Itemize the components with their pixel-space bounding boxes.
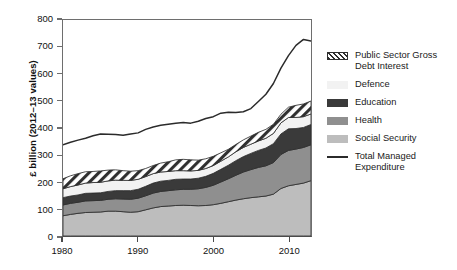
x-tick-label: 2010: [269, 245, 309, 256]
legend-label: Public Sector Gross Debt Interest: [355, 50, 455, 71]
health-swatch-icon: [327, 117, 348, 125]
x-tick: [213, 237, 214, 242]
y-tick-label: 800: [19, 13, 53, 24]
y-tick-label: 600: [19, 68, 53, 79]
chart-container: £ billion (2012–13 values) 0100200300400…: [0, 0, 457, 270]
y-tick: [57, 182, 62, 183]
education-swatch-icon: [327, 99, 348, 107]
legend-label: Education: [355, 97, 396, 108]
y-tick-label: 700: [19, 40, 53, 51]
y-tick-label: 0: [19, 231, 53, 242]
legend-label: Social Security: [355, 133, 417, 144]
y-tick: [57, 46, 62, 47]
y-tick-label: 200: [19, 177, 53, 188]
x-tick-label: 1990: [118, 245, 158, 256]
y-tick: [57, 100, 62, 101]
legend-label: Defence: [355, 79, 390, 90]
hatched-swatch-icon: [327, 52, 348, 60]
legend-item-education: Education: [327, 97, 455, 108]
y-tick: [57, 73, 62, 74]
legend-item-health: Health: [327, 115, 455, 126]
legend-item-social-security: Social Security: [327, 133, 455, 144]
social-security-swatch-icon: [327, 135, 348, 143]
defence-swatch-icon: [327, 81, 348, 89]
y-tick-label: 100: [19, 204, 53, 215]
y-tick-label: 400: [19, 122, 53, 133]
legend-label: Health: [355, 115, 382, 126]
legend-label: Total Managed Expenditure: [355, 151, 455, 172]
y-tick-label: 500: [19, 95, 53, 106]
y-tick: [57, 18, 62, 19]
legend-item-total-managed-expenditure: Total Managed Expenditure: [327, 151, 455, 172]
y-tick-label: 300: [19, 149, 53, 160]
x-tick-label: 2000: [194, 245, 234, 256]
y-tick: [57, 127, 62, 128]
y-tick: [57, 209, 62, 210]
x-tick: [289, 237, 290, 242]
chart-legend: Public Sector Gross Debt Interest Defenc…: [327, 50, 455, 180]
area-layers: [63, 101, 311, 236]
line-swatch-icon: [327, 153, 348, 161]
x-tick-label: 1980: [42, 245, 82, 256]
legend-item-defence: Defence: [327, 79, 455, 90]
legend-item-public-sector-gross-debt-interest: Public Sector Gross Debt Interest: [327, 50, 455, 71]
plot-area: [62, 19, 312, 237]
x-tick: [137, 237, 138, 242]
stacked-area-svg: [63, 20, 311, 236]
x-tick: [61, 237, 62, 242]
y-tick: [57, 155, 62, 156]
